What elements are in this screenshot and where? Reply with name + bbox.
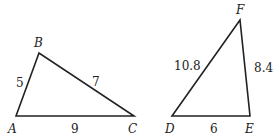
side-ab-label: 5 [16, 76, 24, 90]
vertex-c-label: C [128, 122, 137, 136]
side-de-label: 6 [210, 122, 218, 136]
vertex-f-label: F [235, 3, 245, 17]
triangle-abc: A B C 5 7 9 [7, 36, 137, 136]
vertex-e-label: E [244, 122, 254, 136]
vertex-b-label: B [33, 36, 43, 50]
side-bc-label: 7 [92, 75, 100, 89]
side-ac-label: 9 [71, 122, 79, 136]
side-df-label: 10.8 [174, 59, 201, 73]
triangle-abc-shape [16, 53, 134, 116]
vertex-a-label: A [7, 122, 17, 136]
similar-triangles-diagram: A B C 5 7 9 D E F 10.8 8.4 6 [0, 0, 277, 138]
side-ef-label: 8.4 [254, 61, 273, 75]
triangle-def: D E F 10.8 8.4 6 [164, 3, 273, 136]
vertex-d-label: D [164, 122, 175, 136]
